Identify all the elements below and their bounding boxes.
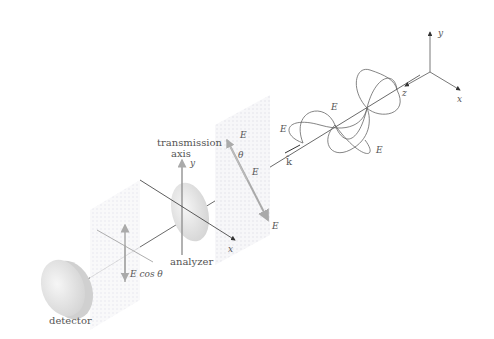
svg-text:E: E [375,145,383,155]
svg-text:y: y [189,158,196,168]
incident-plane [215,95,270,265]
svg-text:E: E [239,130,247,140]
svg-text:E: E [279,124,287,134]
em-wave [289,69,400,153]
svg-text:E: E [271,221,279,231]
svg-text:x: x [457,94,462,104]
svg-text:E: E [251,167,259,177]
svg-text:analyzer: analyzer [170,256,213,267]
svg-text:z: z [401,88,407,98]
svg-text:E cos θ: E cos θ [129,269,163,279]
svg-text:k̂: k̂ [285,155,293,167]
svg-text:axis: axis [171,148,191,159]
svg-text:E: E [330,102,338,112]
svg-text:y: y [437,28,444,38]
reference-axes: y x z [401,28,462,104]
polarization-diagram: y x z k̂ E E E E θ E E transmission axis… [0,0,494,339]
svg-text:transmission: transmission [157,137,222,148]
svg-text:θ: θ [238,150,244,160]
svg-text:x: x [228,244,233,254]
transmitted-plane [90,180,140,330]
k-arrow [285,145,300,153]
svg-text:detector: detector [49,315,92,326]
